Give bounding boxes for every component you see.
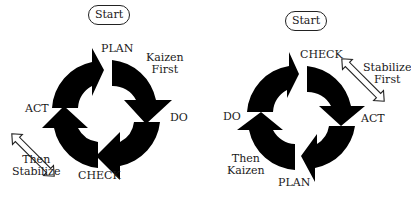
stage-label-right: DO [170, 112, 188, 124]
first-annotation: Kaizen First [146, 52, 184, 76]
start-label: Start [95, 8, 123, 21]
arrow-do-to-check [247, 52, 299, 112]
stage-label-bottom: PLAN [278, 177, 310, 189]
first-annotation: Stabilize First [363, 62, 411, 86]
arrow-act-to-plan [301, 126, 355, 182]
stage-label-top: CHECK [300, 49, 343, 61]
then-annotation: Then Stabilize [12, 154, 60, 178]
arrow-act-to-plan [52, 48, 104, 108]
start-label: Start [292, 14, 320, 27]
stabilize-first-cycle: Start CHECK ACT PLAN DO Stabilize First … [201, 0, 402, 198]
start-node: Start [88, 5, 130, 25]
stage-label-bottom: CHECK [78, 170, 121, 182]
start-node: Start [285, 11, 327, 31]
stage-label-top: PLAN [101, 43, 133, 55]
stage-label-right: ACT [361, 113, 385, 125]
then-annotation: Then Kaizen [227, 153, 265, 177]
stage-label-left: ACT [25, 103, 49, 115]
kaizen-first-cycle: Start PLAN DO CHECK ACT Kaizen First The… [0, 0, 201, 198]
stage-label-left: DO [223, 111, 241, 123]
